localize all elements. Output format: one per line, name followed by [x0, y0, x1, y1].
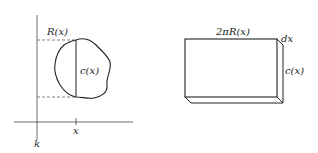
right-figure: 2πR(x) dx c(x) — [185, 26, 304, 103]
slab-bottom-face — [185, 97, 283, 103]
radius-label: R(x) — [46, 26, 68, 37]
axis-k-label: k — [34, 138, 40, 149]
x-tick-label: x — [73, 125, 79, 136]
height-label: c(x) — [285, 65, 304, 76]
left-figure: R(x) c(x) x k — [14, 15, 133, 149]
chord-label: c(x) — [80, 65, 99, 76]
thickness-label: dx — [281, 33, 293, 44]
diagram-canvas: R(x) c(x) x k 2πR(x) dx c(x) — [0, 0, 318, 153]
slab-side-face — [277, 39, 283, 103]
slab-front-face — [185, 39, 277, 97]
width-label: 2πR(x) — [215, 26, 250, 37]
